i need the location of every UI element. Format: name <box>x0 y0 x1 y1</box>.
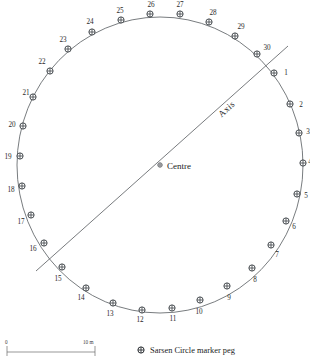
peg-label-25: 25 <box>116 7 124 15</box>
peg-marker-icon <box>147 11 153 17</box>
peg-marker-icon <box>59 264 65 270</box>
peg-marker-icon <box>206 19 212 25</box>
peg-marker-icon <box>28 212 34 218</box>
peg-marker-18[interactable]: 18 <box>7 183 25 194</box>
peg-label-21: 21 <box>22 89 30 97</box>
peg-marker-12[interactable]: 12 <box>136 307 145 324</box>
scale-end-label: 10 m <box>83 339 94 345</box>
peg-label-29: 29 <box>237 23 245 31</box>
peg-marker-icon <box>224 283 230 289</box>
peg-marker-9[interactable]: 9 <box>224 283 231 302</box>
peg-label-27: 27 <box>176 1 184 9</box>
peg-label-16: 16 <box>29 245 37 253</box>
peg-marker-icon <box>169 305 175 311</box>
peg-label-14: 14 <box>77 294 85 302</box>
peg-marker-25[interactable]: 25 <box>116 7 124 23</box>
peg-marker-4[interactable]: 4 <box>300 158 310 166</box>
peg-marker-22[interactable]: 22 <box>38 58 53 74</box>
peg-marker-21[interactable]: 21 <box>22 89 36 100</box>
peg-marker-5[interactable]: 5 <box>294 191 308 200</box>
peg-label-5: 5 <box>304 192 308 200</box>
peg-label-17: 17 <box>17 218 25 226</box>
centre-marker-group: Centre <box>158 161 191 171</box>
peg-marker-icon <box>110 300 116 306</box>
peg-marker-icon <box>271 70 277 76</box>
peg-marker-icon <box>296 130 302 136</box>
peg-marker-icon <box>20 123 26 129</box>
peg-marker-icon <box>118 17 124 23</box>
peg-label-13: 13 <box>106 310 114 318</box>
peg-marker-icon <box>254 51 260 57</box>
peg-marker-16[interactable]: 16 <box>29 240 47 253</box>
centre-marker-icon <box>158 163 162 167</box>
peg-marker-icon <box>294 191 300 197</box>
peg-marker-28[interactable]: 28 <box>206 9 217 25</box>
peg-marker-26[interactable]: 26 <box>147 1 155 17</box>
peg-label-11: 11 <box>170 315 177 323</box>
peg-label-19: 19 <box>4 153 12 161</box>
peg-label-22: 22 <box>38 58 46 66</box>
peg-marker-icon <box>232 33 238 39</box>
peg-label-6: 6 <box>292 223 296 231</box>
peg-label-12: 12 <box>136 316 144 324</box>
peg-marker-icon <box>139 307 145 313</box>
scale-start-label: 0 <box>5 339 8 345</box>
peg-label-9: 9 <box>227 294 231 302</box>
peg-marker-icon <box>268 242 274 248</box>
peg-marker-icon <box>249 265 255 271</box>
peg-marker-icon <box>283 218 289 224</box>
peg-label-24: 24 <box>86 18 94 26</box>
sarsen-circle-plan: 1234567891011121314151617181920212223242… <box>0 0 310 360</box>
peg-marker-icon <box>89 29 95 35</box>
peg-marker-icon <box>197 297 203 303</box>
peg-marker-29[interactable]: 29 <box>232 23 245 39</box>
peg-label-8: 8 <box>253 276 257 284</box>
axis-line <box>36 46 288 271</box>
peg-marker-11[interactable]: 11 <box>169 305 177 323</box>
legend-peg-marker-icon <box>138 347 144 353</box>
peg-label-3: 3 <box>306 128 310 136</box>
peg-marker-19[interactable]: 19 <box>4 153 23 161</box>
axis-label: Axis <box>216 99 237 119</box>
peg-marker-24[interactable]: 24 <box>86 18 95 35</box>
peg-label-4: 4 <box>308 158 310 166</box>
peg-marker-icon <box>30 94 36 100</box>
peg-marker-6[interactable]: 6 <box>283 218 296 231</box>
peg-marker-icon <box>17 153 23 159</box>
peg-marker-icon <box>300 160 306 166</box>
peg-label-2: 2 <box>299 101 303 109</box>
scale-bar: 0 10 m <box>5 339 95 356</box>
legend: Sarsen Circle marker peg <box>138 346 236 355</box>
peg-marker-icon <box>41 240 47 246</box>
peg-marker-17[interactable]: 17 <box>17 212 34 226</box>
peg-label-20: 20 <box>8 121 16 129</box>
peg-label-23: 23 <box>59 36 67 44</box>
peg-marker-27[interactable]: 27 <box>176 1 184 17</box>
peg-marker-7[interactable]: 7 <box>268 242 279 259</box>
peg-marker-icon <box>177 11 183 17</box>
peg-label-30: 30 <box>263 44 271 52</box>
peg-marker-icon <box>287 101 293 107</box>
peg-label-15: 15 <box>54 275 62 283</box>
peg-marker-icon <box>47 68 53 74</box>
peg-marker-icon <box>65 46 71 52</box>
peg-marker-3[interactable]: 3 <box>296 128 310 136</box>
centre-label: Centre <box>167 161 191 171</box>
peg-label-28: 28 <box>209 9 217 17</box>
peg-label-1: 1 <box>284 69 288 77</box>
peg-label-26: 26 <box>147 1 155 9</box>
peg-marker-23[interactable]: 23 <box>59 36 71 52</box>
peg-marker-30[interactable]: 30 <box>254 44 271 57</box>
peg-marker-2[interactable]: 2 <box>287 101 303 109</box>
legend-item-label: Sarsen Circle marker peg <box>150 346 236 355</box>
peg-label-18: 18 <box>7 186 15 194</box>
peg-marker-icon <box>19 183 25 189</box>
peg-label-10: 10 <box>195 308 203 316</box>
peg-marker-icon <box>83 285 89 291</box>
peg-marker-1[interactable]: 1 <box>271 69 288 77</box>
peg-label-7: 7 <box>275 251 279 259</box>
